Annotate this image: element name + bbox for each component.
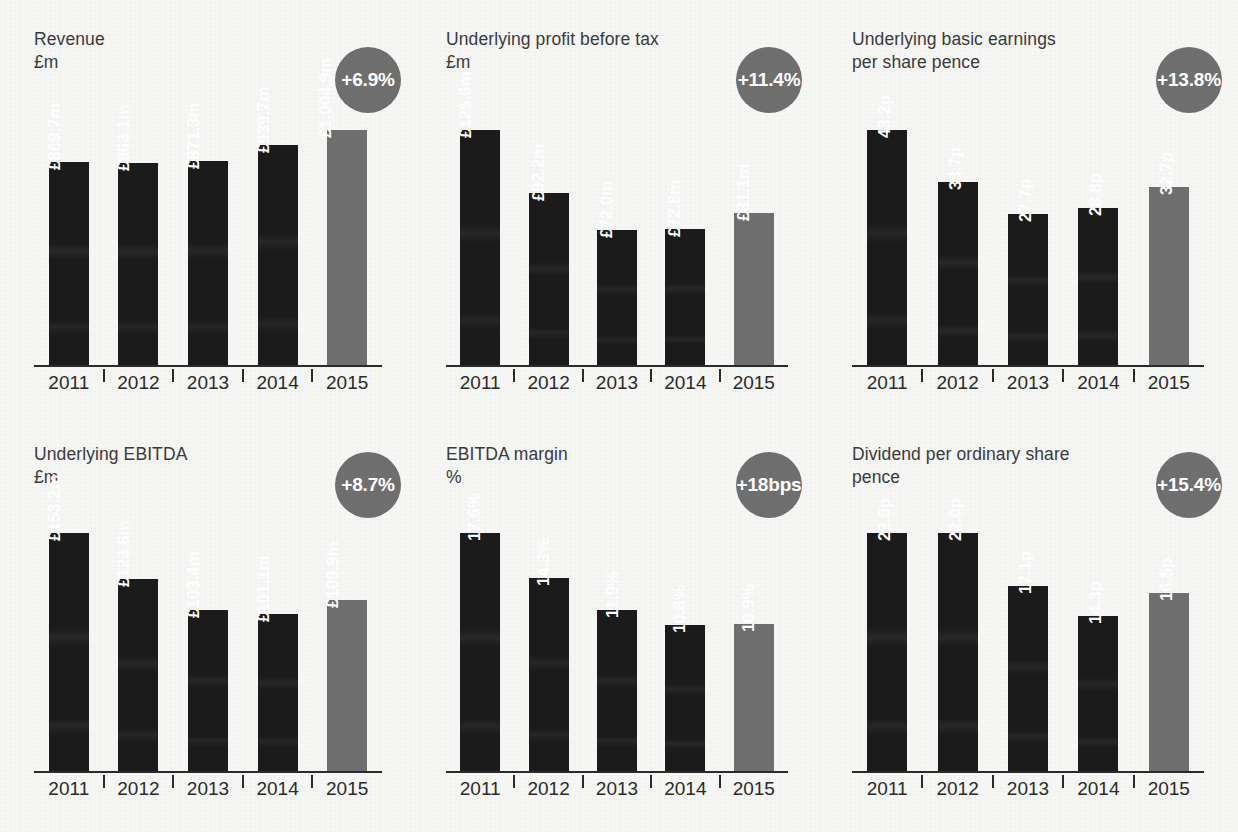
bar-2015[interactable]: 16.5p: [1149, 593, 1189, 772]
x-label-2012: 2012: [514, 778, 582, 800]
bar-slot: 17.1p: [1008, 533, 1048, 771]
bar-slot: £109.9m: [327, 533, 367, 771]
bar-value-label: £101.1m: [253, 556, 273, 622]
x-label-2015: 2015: [720, 778, 788, 800]
x-label-2012: 2012: [104, 778, 174, 800]
bar-slot: 22.0p: [938, 533, 978, 771]
bar-value-label: 33.7p: [945, 147, 965, 190]
x-label-2015: 2015: [312, 372, 382, 394]
bar-value-label: 10.9%: [739, 584, 759, 632]
bar-2011[interactable]: 22.0p: [867, 533, 907, 771]
bar-2014[interactable]: 10.8%: [665, 625, 705, 771]
bar-slot: 33.7p: [938, 130, 978, 365]
plot-area-revenue: £869.7m£863.1m£871.3m£939.7m£1,004.9m201…: [34, 130, 382, 365]
bar-2015[interactable]: £109.9m: [327, 600, 367, 771]
bar-2012[interactable]: £92.2m: [529, 193, 569, 366]
bar-slot: 28.8p: [1078, 130, 1118, 365]
bar-2014[interactable]: £101.1m: [258, 614, 298, 771]
x-label-2012: 2012: [514, 372, 582, 394]
bar-series: 22.0p22.0p17.1p14.3p16.5p: [852, 533, 1204, 771]
chart-unit-label: £m: [34, 51, 105, 74]
bar-2011[interactable]: £869.7m: [49, 162, 89, 365]
bar-value-label: £72.0m: [597, 181, 617, 238]
bar-slot: £101.1m: [258, 533, 298, 771]
bar-2013[interactable]: 27.7p: [1008, 214, 1048, 365]
chart-unit-label: £m: [446, 51, 659, 74]
chart-title-ebitda-margin: EBITDA margin%: [446, 443, 568, 489]
bar-value-label: 14.3%: [534, 538, 554, 586]
bar-2013[interactable]: £103.4m: [188, 610, 228, 771]
chart-unit-label: %: [446, 466, 568, 489]
bar-value-label: 22.0p: [875, 498, 895, 541]
bar-2015[interactable]: £81.1m: [734, 213, 774, 365]
x-label-2014: 2014: [1063, 372, 1133, 394]
bar-2011[interactable]: 43.2p: [867, 130, 907, 365]
bar-2013[interactable]: £72.0m: [597, 230, 637, 365]
bar-value-label: 14.3p: [1086, 581, 1106, 624]
x-label-2011: 2011: [852, 778, 922, 800]
x-label-2011: 2011: [34, 372, 104, 394]
bar-2015[interactable]: £1,004.9m: [327, 130, 367, 365]
x-label-2013: 2013: [173, 778, 243, 800]
chart-panel-underlying-profit-before-tax: Underlying profit before tax£m+11.4%£125…: [412, 0, 818, 415]
growth-badge-dividend-per-ordinary-share: +15.4%: [1156, 452, 1222, 518]
bar-slot: £871.3m: [188, 130, 228, 365]
bar-value-label: £1,004.9m: [316, 58, 336, 138]
growth-badge-ebitda-margin: +18bps: [736, 452, 802, 518]
x-axis-line: [446, 771, 788, 773]
bar-2014[interactable]: 14.3p: [1078, 616, 1118, 771]
bar-2015[interactable]: 10.9%: [734, 624, 774, 771]
bar-value-label: 17.6%: [465, 493, 485, 541]
bar-value-label: 17.1p: [1016, 551, 1036, 594]
bar-slot: 10.8%: [665, 533, 705, 771]
x-label-2011: 2011: [446, 372, 514, 394]
x-axis-line: [852, 771, 1204, 773]
bar-2014[interactable]: 28.8p: [1078, 208, 1118, 365]
chart-title-text: Underlying EBITDA: [34, 443, 187, 466]
chart-title-text: Revenue: [34, 28, 105, 51]
x-label-2013: 2013: [173, 372, 243, 394]
x-label-2012: 2012: [104, 372, 174, 394]
bar-2014[interactable]: £939.7m: [258, 145, 298, 365]
bar-value-label: £72.8m: [666, 180, 686, 237]
bar-value-label: £939.7m: [253, 87, 273, 153]
bar-value-label: 43.2p: [875, 95, 895, 138]
bar-2014[interactable]: £72.8m: [665, 229, 705, 365]
bar-2015[interactable]: 32.7p: [1149, 187, 1189, 365]
x-label-2015: 2015: [312, 778, 382, 800]
x-label-2015: 2015: [720, 372, 788, 394]
chart-title-dividend-per-ordinary-share: Dividend per ordinary share pence: [852, 443, 1070, 489]
bar-slot: 14.3%: [529, 533, 569, 771]
chart-panel-underlying-basic-earnings-per-share: Underlying basic earnings per share penc…: [818, 0, 1238, 415]
bar-value-label: 16.5p: [1156, 558, 1176, 601]
bar-2012[interactable]: 14.3%: [529, 578, 569, 771]
bar-2011[interactable]: £125.6m: [460, 130, 500, 365]
chart-title-text: EBITDA margin: [446, 443, 568, 466]
x-label-2014: 2014: [243, 778, 313, 800]
bar-2013[interactable]: £871.3m: [188, 161, 228, 365]
x-label-2014: 2014: [651, 372, 719, 394]
plot-area-underlying-ebitda: £153.2m£123.6m£103.4m£101.1m£109.9m20112…: [34, 533, 382, 771]
bar-slot: £123.6m: [118, 533, 158, 771]
bar-series: 43.2p33.7p27.7p28.8p32.7p: [852, 130, 1204, 365]
x-axis-line: [446, 365, 788, 367]
bar-2012[interactable]: £123.6m: [118, 579, 158, 771]
x-axis-line: [34, 365, 382, 367]
chart-title-underlying-profit-before-tax: Underlying profit before tax£m: [446, 28, 659, 74]
bar-slot: £125.6m: [460, 130, 500, 365]
bar-2012[interactable]: £863.1m: [118, 163, 158, 365]
bar-2012[interactable]: 33.7p: [938, 182, 978, 365]
bar-2011[interactable]: 17.6%: [460, 533, 500, 771]
bar-slot: £92.2m: [529, 130, 569, 365]
bar-value-label: 28.8p: [1086, 173, 1106, 216]
bar-slot: 16.5p: [1149, 533, 1189, 771]
growth-badge-underlying-profit-before-tax: +11.4%: [736, 47, 802, 113]
bar-value-label: £871.3m: [184, 103, 204, 169]
bar-value-label: £125.6m: [456, 72, 476, 138]
bar-2012[interactable]: 22.0p: [938, 533, 978, 771]
bar-slot: £869.7m: [49, 130, 89, 365]
bar-value-label: £869.7m: [45, 103, 65, 169]
bar-2013[interactable]: 11.9%: [597, 610, 637, 771]
bar-2013[interactable]: 17.1p: [1008, 586, 1048, 771]
bar-2011[interactable]: £153.2m: [49, 533, 89, 771]
